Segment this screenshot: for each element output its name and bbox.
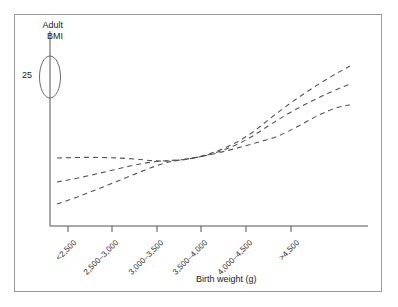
curve-lower bbox=[57, 105, 350, 204]
y-axis-title-line1: Adult bbox=[27, 20, 63, 31]
figure-container: Adult BMI 25 <2,500 2,500–3,000 3,000–3,… bbox=[0, 0, 398, 307]
y-axis-title: Adult BMI bbox=[27, 20, 63, 42]
x-axis-ticks bbox=[68, 226, 291, 232]
chart-curves bbox=[57, 66, 350, 204]
curve-middle bbox=[57, 84, 350, 182]
y-axis-title-line2: BMI bbox=[27, 31, 63, 42]
curve-upper bbox=[57, 66, 350, 161]
y-tick-label-25: 25 bbox=[22, 70, 32, 80]
x-axis-title: Birth weight (g) bbox=[196, 274, 257, 284]
